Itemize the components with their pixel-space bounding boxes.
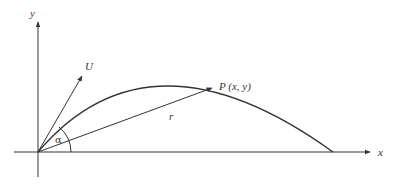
angle-label: α — [55, 134, 62, 145]
y-axis-label: y — [29, 7, 35, 19]
point-label: P (x, y) — [218, 80, 251, 93]
velocity-label: U — [85, 60, 94, 72]
x-axis-label: x — [377, 146, 383, 158]
trajectory-curve — [38, 86, 333, 152]
projectile-diagram: y x U r P (x, y) α — [0, 0, 393, 185]
radius-label: r — [169, 110, 174, 122]
radius-vector — [38, 88, 212, 152]
